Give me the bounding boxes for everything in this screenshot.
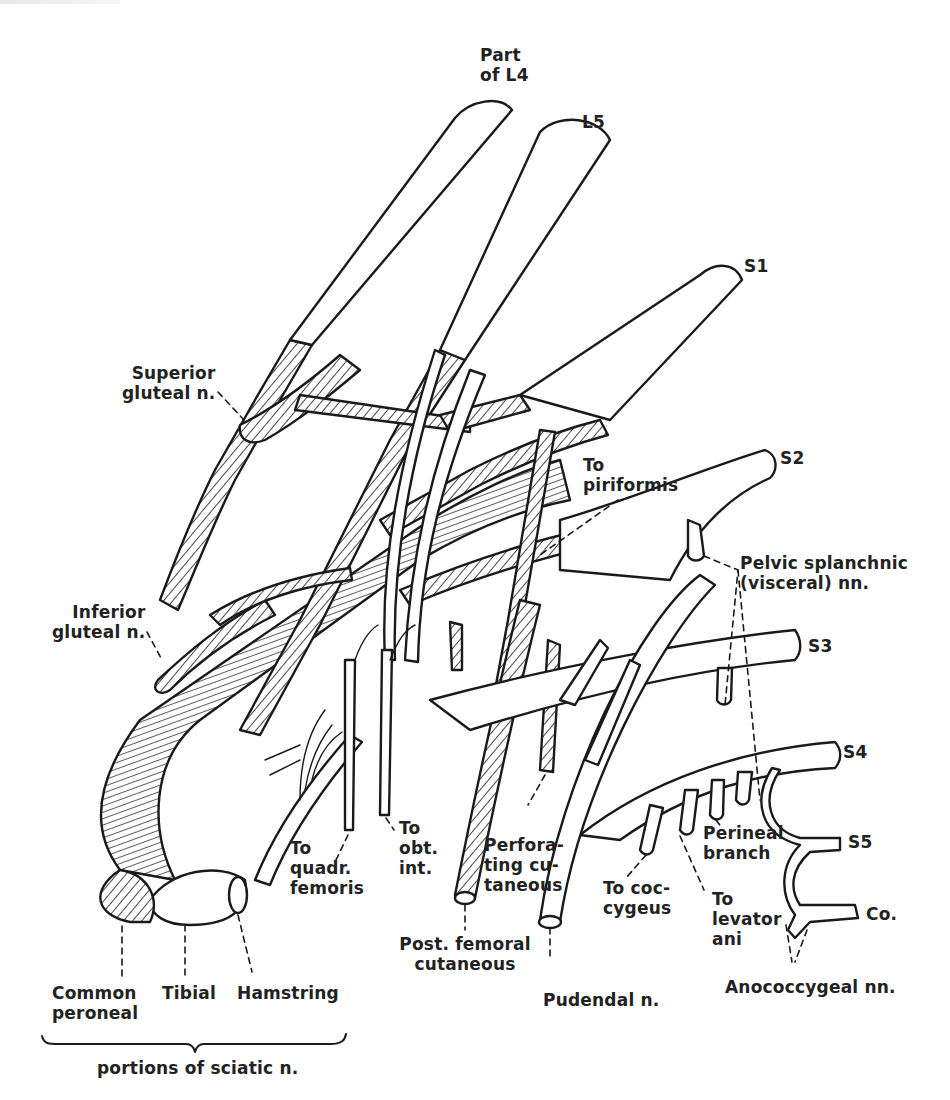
leader-hamstring (238, 915, 252, 972)
root-label-co: Co. (866, 904, 897, 924)
pudendal-cut-end (539, 916, 561, 928)
to-quadratus-femoris-branch (345, 660, 355, 830)
label-superior-gluteal: Superior gluteal n. (122, 363, 216, 403)
pudendal-nerve (540, 575, 715, 922)
label-to-obt-int: To obt. int. (399, 818, 438, 878)
sciatic-hamstring-portion (229, 877, 247, 913)
label-to-piriformis: To piriformis (583, 455, 678, 495)
s1-root (520, 266, 742, 420)
label-pudendal: Pudendal n. (543, 990, 660, 1010)
post-femoral-cutaneous-cut-end (455, 892, 475, 904)
label-to-coccygeus: To coc- cygeus (603, 878, 671, 918)
label-portions-of-sciatic: portions of sciatic n. (97, 1058, 298, 1078)
label-inferior-gluteal: Inferior gluteal n. (52, 602, 146, 642)
sciatic-portions-brace (42, 1034, 346, 1052)
label-post-femoral-cutaneous: Post. femoral cutaneous (365, 934, 565, 974)
label-perforating-cutaneous: Perfora- ting cu- taneous (484, 835, 564, 895)
leader-obt-int (386, 818, 394, 830)
root-label-l5: L5 (582, 112, 605, 132)
label-to-levator-ani: To levator ani (712, 889, 782, 949)
to-obturator-internus-branch (380, 650, 392, 815)
leader-superior-gluteal (218, 392, 244, 420)
leader-levator-ani (680, 836, 704, 890)
label-anococcygeal: Anococcygeal nn. (725, 977, 896, 997)
root-label-l4: Part of L4 (480, 45, 529, 85)
label-common-peroneal: Common peroneal (52, 983, 138, 1023)
root-label-s3: S3 (808, 636, 832, 656)
root-label-s5: S5 (848, 832, 872, 852)
pelvic-splanchnic-stub-s3 (717, 668, 732, 705)
leader-coccygeus (626, 855, 646, 878)
root-label-s4: S4 (843, 742, 867, 762)
leader-perforating (528, 775, 545, 805)
label-tibial: Tibial (162, 983, 216, 1003)
label-perineal-branch: Perineal branch (703, 823, 784, 863)
sciatic-common-peroneal-portion (100, 870, 153, 922)
leader-inferior-gluteal (147, 632, 162, 660)
root-label-s2: S2 (780, 448, 804, 468)
label-pelvic-splanchnic: Pelvic splanchnic (visceral) nn. (740, 553, 908, 593)
root-label-s1: S1 (744, 256, 768, 276)
label-hamstring: Hamstring (237, 983, 339, 1003)
label-to-quadr-femoris: To quadr. femoris (290, 838, 364, 898)
